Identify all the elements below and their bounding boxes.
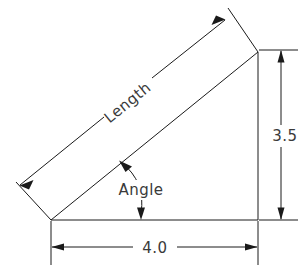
angle-dimension-group: Angle (110, 161, 172, 221)
technical-drawing-canvas: Length Angle 3.5 (0, 0, 307, 270)
base-dimension-group: 4.0 (51, 221, 258, 265)
length-arrowhead-upper-right (212, 16, 226, 26)
angle-label: Angle (118, 181, 163, 199)
height-arrowhead-bottom (278, 208, 285, 221)
length-dimension-line-upper-segment (152, 20, 225, 78)
angle-arrowhead-base (137, 208, 145, 221)
drawing-svg: Length Angle 3.5 (0, 0, 307, 270)
base-arrowhead-right (245, 244, 258, 251)
base-arrowhead-left (52, 244, 65, 251)
length-label: Length (101, 78, 155, 126)
height-dimension-value: 3.5 (272, 127, 297, 145)
length-dimension-line-lower-segment (20, 117, 104, 185)
base-dimension-value: 4.0 (142, 239, 167, 257)
height-dimension-group: 3.5 (259, 50, 298, 220)
height-arrowhead-top (278, 50, 285, 63)
length-extension-line-left (16, 182, 51, 220)
length-extension-line-right (228, 8, 258, 52)
